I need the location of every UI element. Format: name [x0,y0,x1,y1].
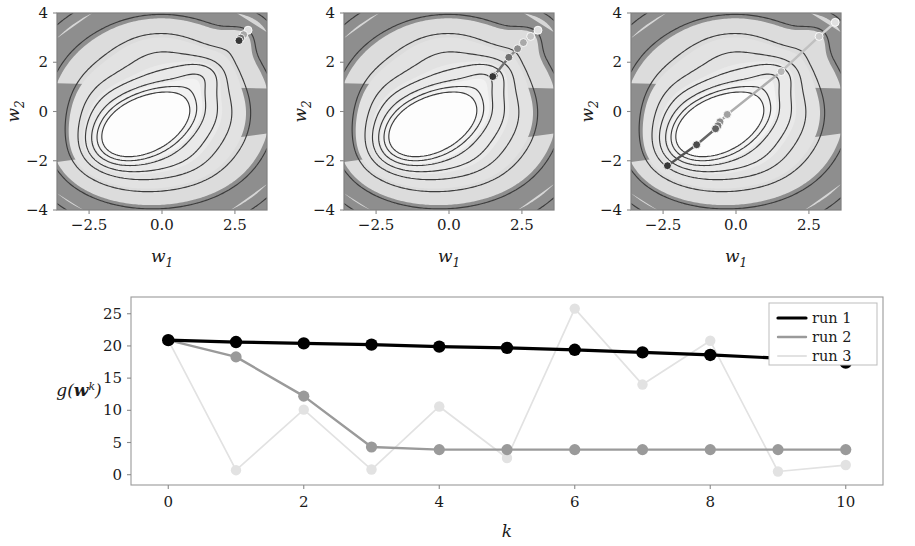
legend-label: run 2 [812,329,851,345]
y-axis-label: w2 [577,100,601,122]
trajectory-point [235,37,243,45]
y-tick-label: 4 [612,4,622,22]
x-tick-label: 0.0 [150,216,174,234]
trajectory-point [505,53,513,61]
data-point [637,444,648,455]
x-axis-label: w1 [151,246,173,270]
figure-root: −2.50.02.5−4−2024w1w2 −2.50.02.5−4−2024w… [0,0,915,546]
x-axis-label: k [502,521,512,541]
data-point [704,349,716,361]
y-axis-label: w2 [290,100,314,122]
trajectory-point [831,18,839,26]
data-point [569,344,581,356]
trajectory-point [693,141,701,149]
y-tick-label: 10 [103,401,122,419]
x-tick-label: 2 [299,493,309,511]
x-tick-label: −2.5 [358,216,394,234]
data-point [231,465,241,475]
y-tick-label: −4 [313,201,335,219]
trajectory-point [489,73,497,81]
contour-panel-run-2: −2.50.02.5−4−2024w1w2 [287,0,592,282]
x-tick-label: −2.5 [71,216,107,234]
trajectory-point [514,45,522,53]
x-tick-label: 4 [434,493,444,511]
y-tick-label: −2 [313,152,335,170]
trajectory-point [777,68,785,76]
contour-panel-row: −2.50.02.5−4−2024w1w2 −2.50.02.5−4−2024w… [0,0,915,282]
y-tick-label: 0 [112,466,122,484]
contour-field [631,13,841,210]
y-tick-label: −2 [26,152,48,170]
data-point [637,379,647,389]
y-tick-label: 15 [103,369,122,387]
data-point [772,444,783,455]
data-point [366,464,376,474]
data-point [299,404,309,414]
data-point [433,340,445,352]
data-point [636,346,648,358]
x-tick-label: 0.0 [437,216,461,234]
x-tick-label: 2.5 [223,216,247,234]
y-tick-label: 0 [325,103,335,121]
y-tick-label: 2 [38,53,48,71]
data-point [366,441,377,452]
data-point [773,466,783,476]
y-tick-label: 2 [612,53,622,71]
data-point [501,444,512,455]
x-tick-label: 6 [570,493,580,511]
trajectory-point [815,32,823,40]
x-tick-label: 8 [705,493,715,511]
svg-text:g(wk): g(wk) [56,380,101,400]
x-tick-label: 0.0 [724,216,748,234]
data-point [434,401,444,411]
contour-panel-run-3: −2.50.02.5−4−2024w1w2 [574,0,879,282]
data-point [298,391,309,402]
y-tick-label: 25 [103,305,122,323]
y-tick-label: 20 [103,337,122,355]
y-tick-label: 0 [612,103,622,121]
legend-label: run 1 [812,310,851,326]
y-tick-label: 0 [38,103,48,121]
data-point [434,444,445,455]
x-tick-label: 2.5 [797,216,821,234]
x-tick-label: 2.5 [510,216,534,234]
y-tick-label: 2 [325,53,335,71]
data-point [570,303,580,313]
data-point [705,336,715,346]
svg-text:w2: w2 [577,100,601,122]
x-tick-label: 0 [163,493,173,511]
data-point [501,342,513,354]
svg-text:w2: w2 [3,100,27,122]
data-point [365,338,377,350]
x-tick-label: −2.5 [645,216,681,234]
y-tick-label: 4 [325,4,335,22]
y-tick-label: −4 [26,201,48,219]
y-axis-label: w2 [3,100,27,122]
x-axis-label: w1 [725,246,747,270]
trajectory-point [712,125,720,133]
y-tick-label: −2 [600,152,622,170]
legend-label: run 3 [812,348,851,364]
y-tick-label: 5 [112,434,122,452]
trajectory-point [534,26,542,34]
data-point [298,337,310,349]
trajectory-point [663,162,671,170]
data-point [230,336,242,348]
x-axis-label: w1 [438,246,460,270]
data-point [705,444,716,455]
legend: run 1run 2run 3 [769,303,877,365]
y-tick-label: −4 [600,201,622,219]
trajectory-point [723,110,731,118]
y-tick-label: 4 [38,4,48,22]
svg-text:w2: w2 [290,100,314,122]
cost-history-plot: 05101520250246810kg(wk)run 1run 2run 3 [0,282,915,546]
data-point [840,444,851,455]
data-point [841,460,851,470]
contour-panel-run-1: −2.50.02.5−4−2024w1w2 [0,0,305,282]
trajectory-point [527,32,535,40]
x-tick-label: 10 [836,493,855,511]
trajectory-point [519,39,527,47]
data-point [230,351,241,362]
data-point [569,444,580,455]
data-point [162,334,174,346]
